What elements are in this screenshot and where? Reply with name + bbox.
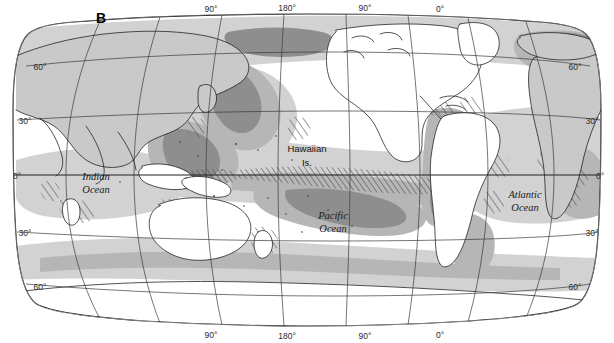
lat-label-left-30s: 30° [19, 228, 32, 238]
lat-label-right-60s: 60° [569, 282, 582, 292]
lon-label-bottom-1: 90° [205, 330, 218, 340]
lon-label-top-3: 90° [359, 3, 372, 13]
label-atlantic-ocean-line2: Ocean [511, 202, 538, 213]
lat-label-left-60s: 60° [34, 282, 47, 292]
label-pacific-ocean-line1: Pacific [317, 210, 348, 221]
lat-label-right-60n: 60° [569, 62, 582, 72]
label-hawaiian-line1: Hawaiian [287, 143, 326, 154]
label-pacific-ocean-line2: Ocean [319, 223, 346, 234]
lat-label-left-0: 0° [13, 171, 21, 181]
label-indian-ocean-line1: Indian [81, 171, 109, 182]
lon-label-top-2: 180° [278, 3, 296, 13]
lat-label-right-0: 0° [596, 171, 604, 181]
lon-label-bottom-2: 180° [278, 331, 296, 341]
label-indian-ocean-line2: Ocean [82, 184, 109, 195]
map-canvas: B 90° 180° 90° 0° 90° 180° 90° 0° 60° 30… [0, 0, 614, 343]
lon-label-top-4: 0° [436, 4, 444, 14]
lat-label-left-60n: 60° [34, 62, 47, 72]
lat-label-right-30s: 30° [586, 228, 599, 238]
lon-label-top-1: 90° [205, 4, 218, 14]
world-map-figure: B 90° 180° 90° 0° 90° 180° 90° 0° 60° 30… [0, 0, 614, 343]
panel-letter: B [96, 10, 106, 26]
label-atlantic-ocean-line1: Atlantic [507, 189, 542, 200]
lat-label-left-30n: 30° [19, 116, 32, 126]
lon-label-bottom-4: 0° [436, 330, 444, 340]
label-hawaiian-line2: Is. [302, 157, 312, 168]
lon-label-bottom-3: 90° [359, 331, 372, 341]
lat-label-right-30n: 30° [586, 116, 599, 126]
